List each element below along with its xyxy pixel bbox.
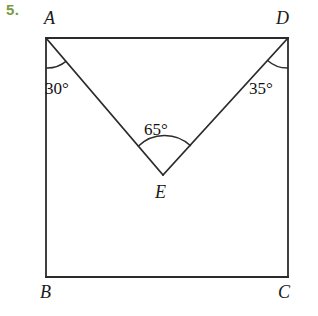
angle-arc-D xyxy=(268,60,288,68)
vertex-label-A: A xyxy=(44,9,55,27)
vertex-label-E: E xyxy=(155,183,166,201)
vertex-label-B: B xyxy=(40,283,51,301)
angle-measure-A: 30° xyxy=(45,80,69,97)
vertex-label-D: D xyxy=(276,9,289,27)
angle-arc-A xyxy=(46,61,66,68)
segment-AE xyxy=(46,38,163,175)
vertex-label-C: C xyxy=(278,283,290,301)
segment-ED xyxy=(163,38,288,175)
geometry-figure: 5. A D B C E 30° 35° 65° xyxy=(0,0,318,316)
problem-number: 5. xyxy=(6,2,19,17)
figure-drawing xyxy=(0,0,318,316)
angle-measure-E: 65° xyxy=(144,121,168,138)
angle-measure-D: 35° xyxy=(249,80,273,97)
